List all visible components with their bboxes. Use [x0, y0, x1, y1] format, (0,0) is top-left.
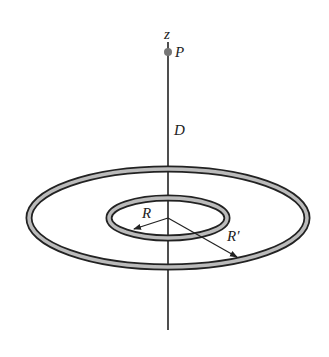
inner-radius-label: R	[141, 205, 151, 221]
point-p-label: P	[174, 44, 184, 60]
ring-diagram: z P D R R′	[0, 0, 329, 357]
distance-d-label: D	[173, 122, 185, 138]
outer-radius-label: R′	[226, 228, 240, 244]
point-p	[164, 48, 172, 56]
z-axis-label: z	[163, 26, 170, 42]
